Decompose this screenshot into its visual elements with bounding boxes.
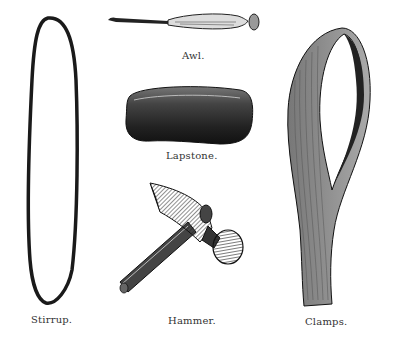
clamps-label: Clamps. xyxy=(305,316,347,327)
lapstone-label: Lapstone. xyxy=(166,150,218,161)
awl-label: Awl. xyxy=(182,50,205,61)
stirrup-drawing xyxy=(29,18,78,303)
lapstone-drawing xyxy=(126,87,253,144)
clamps-drawing xyxy=(288,28,370,306)
awl-drawing xyxy=(108,14,259,30)
hammer-label: Hammer. xyxy=(168,315,216,326)
hammer-drawing xyxy=(120,183,243,293)
stirrup-label: Stirrup. xyxy=(31,314,72,325)
